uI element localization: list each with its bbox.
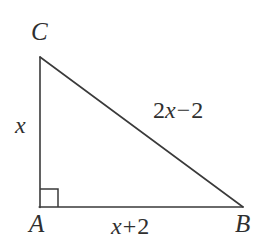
vertex-label-b: B: [235, 211, 250, 236]
hypotenuse-variable: x: [165, 97, 176, 123]
side-label-horizontal-leg: x+2: [111, 214, 149, 238]
hypotenuse-coefficient: 2: [153, 97, 165, 123]
vertex-label-c: C: [31, 19, 48, 44]
vertex-label-a: A: [29, 211, 44, 236]
hypotenuse-line: [40, 57, 243, 207]
base-constant: 2: [137, 213, 149, 239]
right-angle-marker-icon: [40, 189, 58, 207]
hypotenuse-operator: −: [176, 97, 192, 123]
side-label-hypotenuse: 2x−2: [153, 98, 203, 122]
side-label-vertical-leg: x: [15, 113, 26, 137]
base-variable: x: [111, 213, 122, 239]
hypotenuse-constant: 2: [191, 97, 203, 123]
right-triangle-figure: C A B x 2x−2 x+2: [0, 0, 269, 249]
base-operator: +: [122, 213, 138, 239]
